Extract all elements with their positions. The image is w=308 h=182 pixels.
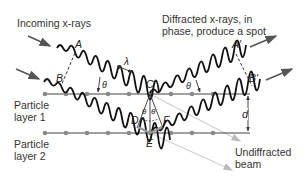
theta-symbol-left: θ — [102, 80, 107, 90]
point-b-label: B — [56, 72, 63, 84]
theta-arrow-right — [196, 80, 200, 92]
diffracted-arrow-2 — [266, 69, 292, 80]
incoming-arrow-2 — [16, 69, 39, 79]
point-a-prime-label: A′ — [232, 38, 241, 50]
theta-symbol-cd: θ — [142, 107, 146, 116]
bragg-diffraction-diagram: Incoming x-rays Diffracted x-rays, in ph… — [0, 0, 308, 182]
undiffracted-beam-label: Undiffracted beam — [235, 146, 291, 170]
wavefront-ab — [61, 53, 75, 86]
point-e-label: E — [146, 137, 153, 149]
particle-layer-2-label: Particle layer 2 — [14, 138, 49, 162]
point-b-prime-label: B′ — [249, 72, 258, 84]
undiffracted-beams — [150, 94, 240, 170]
point-d-label: D — [131, 114, 139, 126]
path-difference-construction — [137, 94, 163, 133]
point-a-label: A — [75, 38, 82, 50]
theta-symbol-right: θ — [186, 81, 191, 91]
theta-symbol-cf: θ — [151, 107, 155, 116]
diffracted-xrays-label: Diffracted x-rays, in phase, produce a s… — [162, 13, 266, 37]
point-f-label: F — [163, 114, 169, 126]
incoming-xrays-label: Incoming x-rays — [17, 17, 91, 29]
point-c-label: C — [146, 78, 154, 90]
theta-arrow-left — [98, 77, 100, 92]
incoming-arrow-1 — [28, 36, 50, 46]
d-spacing-symbol: d — [242, 108, 248, 120]
diffracted-arrow-1 — [250, 36, 276, 47]
wavelength-symbol: λ — [124, 56, 129, 67]
particle-layer-1-label: Particle layer 1 — [14, 99, 49, 123]
